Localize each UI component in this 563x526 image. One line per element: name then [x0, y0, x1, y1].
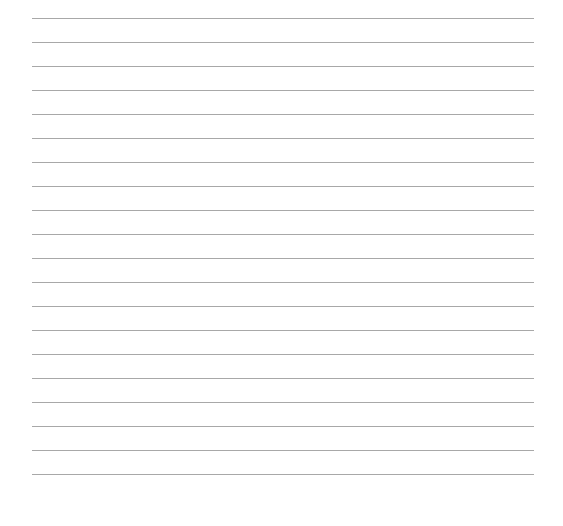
ruled-line — [32, 474, 534, 475]
ruled-line — [32, 42, 534, 43]
ruled-line — [32, 426, 534, 427]
ruled-line — [32, 186, 534, 187]
ruled-line — [32, 66, 534, 67]
ruled-line — [32, 330, 534, 331]
ruled-line — [32, 210, 534, 211]
ruled-line — [32, 18, 534, 19]
ruled-line — [32, 354, 534, 355]
ruled-line — [32, 162, 534, 163]
ruled-line — [32, 450, 534, 451]
ruled-line — [32, 378, 534, 379]
ruled-line — [32, 402, 534, 403]
ruled-line — [32, 306, 534, 307]
lined-paper-sheet — [0, 0, 563, 526]
ruled-line — [32, 138, 534, 139]
ruled-line — [32, 90, 534, 91]
ruled-line — [32, 258, 534, 259]
ruled-line — [32, 114, 534, 115]
ruled-line — [32, 234, 534, 235]
ruled-line — [32, 282, 534, 283]
